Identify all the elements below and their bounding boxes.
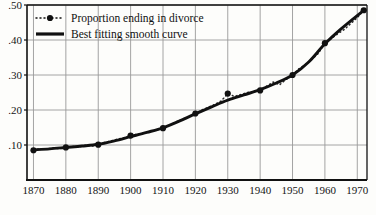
- y-tick-label-.10: .10: [8, 139, 22, 151]
- legend-label-smooth-curve: Best fitting smooth curve: [71, 28, 188, 41]
- data-point-1880: [63, 144, 69, 150]
- y-tick-label-.20: .20: [8, 104, 22, 116]
- chart-figure: .10.20.30.40.50 187018801890190019101920…: [0, 0, 376, 215]
- data-point-1960: [322, 40, 328, 46]
- figure-background: [0, 0, 376, 215]
- x-tick-label-1970: 1970: [346, 184, 369, 196]
- y-tick-label-.50: .50: [8, 0, 22, 11]
- x-tick-label-1900: 1900: [120, 184, 143, 196]
- data-point-1890: [95, 142, 101, 148]
- x-tick-label-1920: 1920: [184, 184, 207, 196]
- y-tick-label-.30: .30: [8, 69, 22, 81]
- x-tick-label-1880: 1880: [55, 184, 78, 196]
- x-tick-label-1890: 1890: [87, 184, 110, 196]
- legend-marker-circle-icon: [47, 15, 53, 21]
- data-point-1930: [225, 90, 231, 96]
- x-tick-label-1870: 1870: [22, 184, 45, 196]
- x-tick-label-1950: 1950: [282, 184, 305, 196]
- data-point-1972: [361, 7, 367, 13]
- data-point-1910: [160, 125, 166, 131]
- x-tick-label-1910: 1910: [152, 184, 175, 196]
- data-point-1940: [257, 87, 263, 93]
- legend-label-proportion: Proportion ending in divorce: [71, 12, 204, 25]
- data-point-1870: [30, 147, 36, 153]
- x-tick-label-1940: 1940: [249, 184, 272, 196]
- x-tick-label-1960: 1960: [314, 184, 337, 196]
- data-point-1920: [192, 110, 198, 116]
- data-point-1900: [128, 132, 134, 138]
- divorce-proportion-line-chart: .10.20.30.40.50 187018801890190019101920…: [0, 0, 376, 215]
- x-tick-label-1930: 1930: [217, 184, 240, 196]
- y-tick-label-.40: .40: [8, 34, 22, 46]
- data-point-1950: [289, 72, 295, 78]
- x-axis-tick-labels: 1870188018901900191019201930194019501960…: [22, 184, 368, 196]
